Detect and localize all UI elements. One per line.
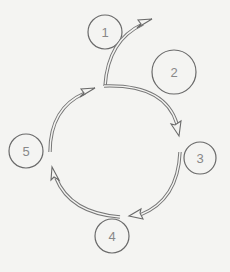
node-4-label: 4 <box>108 229 115 244</box>
node-3-label: 3 <box>196 151 203 166</box>
arrow-head-icon <box>137 19 152 28</box>
node-2: 2 <box>152 50 196 94</box>
cycle-diagram: 1 2 3 4 5 <box>0 0 230 272</box>
arrow-head-icon <box>51 167 59 180</box>
node-1-label: 1 <box>101 25 108 40</box>
arrow-5-to-junction <box>50 88 95 152</box>
node-5: 5 <box>9 134 43 168</box>
arrow-up-branch <box>105 19 152 86</box>
arrow-head-icon <box>129 209 143 219</box>
arrow-3-to-4 <box>129 152 180 219</box>
node-5-label: 5 <box>22 144 29 159</box>
node-2-label: 2 <box>170 65 177 80</box>
node-4: 4 <box>95 219 129 253</box>
node-3: 3 <box>184 142 216 174</box>
arrow-4-to-5 <box>51 167 120 217</box>
